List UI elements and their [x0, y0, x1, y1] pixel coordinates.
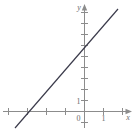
x-axis-label: x	[125, 113, 130, 122]
y-axis-arrow-icon	[82, 4, 87, 11]
origin-label: 0	[77, 114, 81, 123]
graph-figure: 0 1 1 x y	[0, 0, 138, 136]
data-line-series	[15, 9, 118, 128]
x-tick-label-one: 1	[102, 114, 106, 123]
coordinate-plot: 0 1 1 x y	[0, 0, 138, 136]
y-axis-label: y	[76, 3, 81, 12]
y-tick-label-one: 1	[77, 97, 81, 106]
